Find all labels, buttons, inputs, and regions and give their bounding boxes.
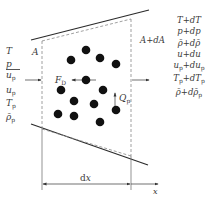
right-state-3: u+du [168, 49, 209, 60]
left-state-list: T p up up Tp ρ̄p [6, 46, 26, 125]
x-axis-label: x [153, 187, 158, 197]
left-state-up1: up [6, 69, 20, 83]
particle [112, 60, 121, 69]
particle [82, 76, 91, 85]
right-state-list: T+dT p+dp ρ̄+dρ̄ u+du up+dup Tp+dTp ρ̄+d… [168, 15, 209, 100]
right-state-2: ρ̄+dρ̄ [168, 38, 209, 49]
left-state-rhop: ρ̄p [6, 112, 26, 125]
particle [70, 97, 79, 106]
right-state-5: Tp+dTp [168, 73, 209, 86]
left-state-T: T [6, 46, 26, 56]
particle [70, 112, 79, 121]
right-state-1: p+dp [168, 26, 209, 37]
particle [96, 118, 105, 127]
left-state-up2: up [6, 85, 26, 98]
right-state-0: T+dT [168, 15, 209, 26]
left-state-Tp: Tp [6, 98, 26, 111]
area-label-right: A+dA [140, 35, 165, 45]
upper-control-surface [42, 19, 131, 41]
heat-label: Qp [119, 93, 130, 106]
area-label-left: A [32, 47, 39, 57]
drag-force-label: FD [55, 75, 66, 88]
particle [82, 46, 91, 55]
left-state-p: p [6, 59, 26, 69]
lower-wall [31, 124, 148, 165]
right-state-4: up+dup [168, 60, 209, 73]
particle [112, 106, 121, 115]
particle [54, 110, 63, 119]
particle [67, 56, 76, 65]
dx-label: dx [80, 173, 91, 183]
right-state-6: ρ̄+dρ̄p [168, 87, 209, 100]
particle [90, 100, 99, 109]
particle [99, 86, 108, 95]
particle [96, 54, 105, 63]
